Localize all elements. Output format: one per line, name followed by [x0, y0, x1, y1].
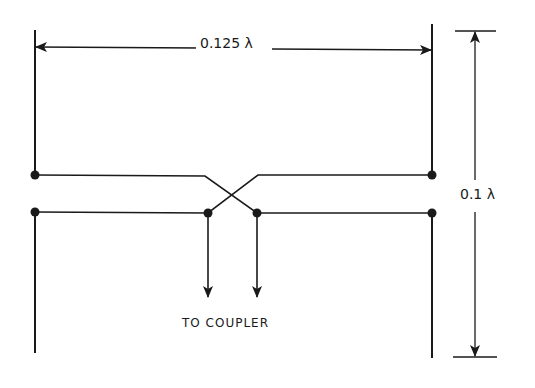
to-coupler-label: TO COUPLER [182, 316, 269, 330]
width-dimension-label: 0.125 λ [196, 35, 257, 51]
diagram-canvas: 0.125 λ 0.1 λ TO COUPLER [0, 0, 535, 388]
junction-dot [428, 171, 437, 180]
width-arrow-right [272, 49, 431, 50]
junction-dot [31, 208, 40, 217]
phasing-conductor-b [35, 175, 432, 213]
feed-lines [208, 213, 257, 297]
width-arrow-left [36, 47, 200, 48]
phasing-line [35, 175, 432, 213]
junction-dot [31, 171, 40, 180]
junction-dot [428, 209, 437, 218]
height-dimension-label: 0.1 λ [458, 184, 497, 204]
